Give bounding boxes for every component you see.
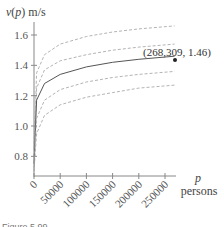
y-tick-label: 1.2 [14,90,28,102]
y-tick-label: 1.6 [14,29,28,41]
endpoint-annotation: (268,309, 1.46) [143,46,211,59]
x-tick-label: 200000 [112,178,144,210]
x-ticks: 050000100000150000200000250000 [27,173,171,210]
bound-curve [34,71,175,168]
x-axis-unit: persons [181,184,218,198]
figure-caption: Figure 5.99 [2,222,48,227]
bound-curve [34,85,175,171]
x-tick-label: 250000 [139,178,171,210]
endpoint-marker [173,58,177,62]
x-axis-title: p [194,171,201,185]
bound-curve [34,44,175,156]
y-tick-label: 1.4 [14,59,28,71]
y-axis-title: v(p) m/s [6,5,46,19]
x-tick-label: 150000 [86,178,118,210]
velocity-chart: 0.81.01.21.41.6 050000100000150000200000… [0,0,224,227]
x-tick-label: 0 [27,178,40,191]
y-tick-label: 0.8 [14,150,28,162]
x-tick-label: 100000 [60,178,92,210]
velocity-curve [34,56,175,164]
y-tick-label: 1.0 [14,120,28,132]
